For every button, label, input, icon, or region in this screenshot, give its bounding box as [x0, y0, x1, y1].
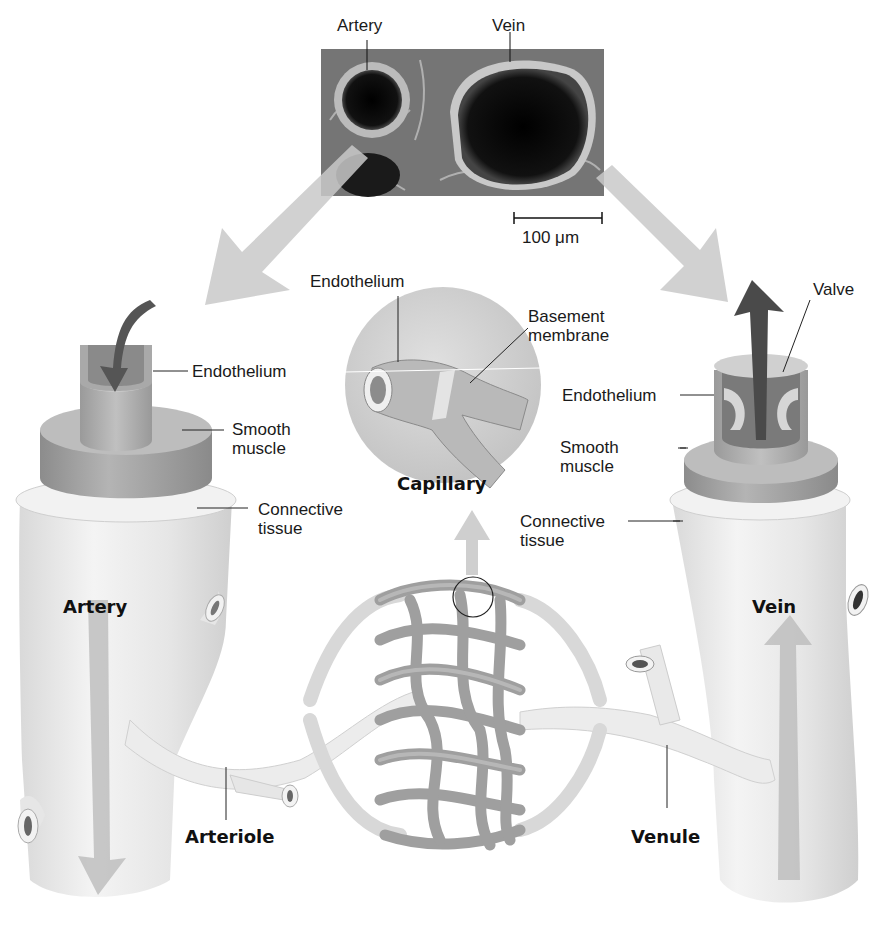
vein-smooth-muscle-line1: Smooth: [560, 438, 619, 457]
capillary-endothelium-label: Endothelium: [310, 272, 405, 291]
artery-connective-line1: Connective: [258, 500, 343, 519]
capillary-basement-membrane-label: Basement membrane: [528, 307, 609, 345]
blood-vessel-diagram: Artery Vein 100 μm Endothelium Smooth mu…: [0, 0, 877, 926]
micrograph-artery-label: Artery: [337, 16, 382, 35]
micrograph: [321, 49, 604, 197]
artery-connective-tissue-label: Connective tissue: [258, 500, 343, 538]
vein-connective-tissue-label: Connective tissue: [520, 512, 605, 550]
vein-endothelium-label: Endothelium: [562, 386, 657, 405]
diagram-artwork: [0, 0, 877, 926]
artery-connective-line2: tissue: [258, 519, 343, 538]
micrograph-vein-label: Vein: [492, 16, 525, 35]
vein-smooth-muscle-label: Smooth muscle: [560, 438, 619, 476]
vein-valve-label: Valve: [813, 280, 854, 299]
artery-title: Artery: [63, 596, 127, 617]
scale-bar-label: 100 μm: [522, 228, 579, 247]
artery-smooth-muscle-line1: Smooth: [232, 420, 291, 439]
artery-endothelium-label: Endothelium: [192, 362, 287, 381]
venule-label: Venule: [631, 826, 700, 847]
vein-connective-line2: tissue: [520, 531, 605, 550]
arrow-to-vein: [596, 165, 728, 302]
vein-title: Vein: [752, 596, 796, 617]
scale-bar: [514, 212, 602, 224]
vein-illustration: [670, 280, 872, 903]
artery-smooth-muscle-line2: muscle: [232, 439, 291, 458]
basement-membrane-line2: membrane: [528, 326, 609, 345]
capillary-title: Capillary: [397, 473, 487, 494]
vein-connective-line1: Connective: [520, 512, 605, 531]
artery-smooth-muscle-label: Smooth muscle: [232, 420, 291, 458]
vein-smooth-muscle-line2: muscle: [560, 457, 619, 476]
arteriole-label: Arteriole: [185, 826, 274, 847]
basement-membrane-line1: Basement: [528, 307, 609, 326]
capillary-inset: [345, 287, 541, 488]
